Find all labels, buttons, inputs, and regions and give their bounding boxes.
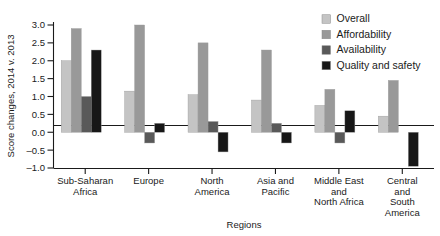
x-category-label-line: and [331, 186, 347, 197]
legend-label: Availability [337, 43, 387, 55]
y-tick-label: –0.5 [27, 145, 46, 156]
legend-swatch [322, 61, 331, 70]
y-tick-label: 1.0 [32, 91, 45, 102]
x-category-label: Europe [133, 175, 164, 186]
x-category-label-line: and [394, 186, 410, 197]
bar [325, 89, 335, 132]
bar [135, 25, 145, 132]
x-category-label-line: America [195, 186, 231, 197]
bar-group [188, 43, 228, 152]
y-axis-title: Score changes, 2014 v. 2013 [5, 35, 16, 158]
x-axis-category-labels: Sub-SaharanAfricaEuropeNorthAmericaAsia … [57, 175, 420, 218]
x-category-label-line: America [385, 207, 421, 218]
bar [271, 123, 281, 132]
x-category-label-line: Central [387, 175, 418, 186]
bar [208, 122, 218, 133]
y-tick-label: 2.0 [32, 55, 45, 66]
x-category-label-line: Pacific [261, 186, 289, 197]
bar [71, 29, 81, 133]
x-category-label: Asia andPacific [257, 175, 294, 197]
legend-swatch [322, 15, 331, 24]
bar [218, 132, 228, 152]
bar [378, 116, 388, 132]
bar [345, 111, 355, 132]
bar [188, 95, 198, 133]
legend-label: Overall [337, 12, 370, 24]
x-category-label-line: Africa [73, 186, 98, 197]
x-category-label-line: North [200, 175, 223, 186]
x-category-label-line: South [390, 196, 415, 207]
x-axis-title: Regions [227, 219, 262, 230]
y-tick-label: 1.5 [32, 73, 45, 84]
bar [251, 100, 261, 132]
y-tick-label: 3.0 [32, 19, 45, 30]
bar [408, 132, 418, 166]
bar [388, 80, 398, 132]
x-category-label-line: Asia and [257, 175, 294, 186]
x-category-label-line: Sub-Saharan [57, 175, 113, 186]
legend-swatch [322, 30, 331, 39]
chart-legend: OverallAffordabilityAvailabilityQuality … [322, 12, 421, 71]
y-tick-label: 2.5 [32, 37, 45, 48]
y-tick-label: –1.0 [27, 162, 46, 173]
bar [61, 61, 71, 133]
bar-group [315, 89, 355, 143]
bar [91, 50, 101, 132]
y-tick-label: 0.0 [32, 127, 45, 138]
bar-group [125, 25, 165, 143]
bar-group [61, 29, 101, 133]
bar [281, 132, 291, 143]
x-category-label: Sub-SaharanAfrica [57, 175, 113, 197]
bar [335, 132, 345, 143]
bar [155, 123, 165, 132]
x-axis-ticks [85, 169, 402, 175]
chart-canvas: Score changes, 2014 v. 2013 –1.0–0.50.00… [0, 0, 440, 236]
bar-group [378, 80, 418, 166]
legend-label: Quality and safety [337, 59, 422, 71]
y-tick-label: 0.5 [32, 109, 45, 120]
x-category-label-line: North Africa [314, 196, 364, 207]
x-category-label: NorthAmerica [195, 175, 231, 197]
bar [198, 43, 208, 132]
bar [81, 97, 91, 133]
legend-label: Affordability [337, 28, 392, 40]
bar [315, 105, 325, 132]
legend-swatch [322, 46, 331, 55]
y-axis-ticks: –1.0–0.50.00.51.01.52.02.53.0 [27, 19, 54, 173]
bar [261, 50, 271, 132]
x-category-label: CentralandSouthAmerica [385, 175, 421, 218]
x-category-label: Middle EastandNorth Africa [314, 175, 364, 207]
bar [145, 132, 155, 143]
bar-group [251, 50, 291, 143]
bar [125, 91, 135, 132]
x-category-label-line: Middle East [314, 175, 364, 186]
y-axis-title-group: Score changes, 2014 v. 2013 [5, 35, 16, 158]
x-category-label-line: Europe [133, 175, 164, 186]
bar-chart-figure: Score changes, 2014 v. 2013 –1.0–0.50.00… [0, 0, 440, 236]
